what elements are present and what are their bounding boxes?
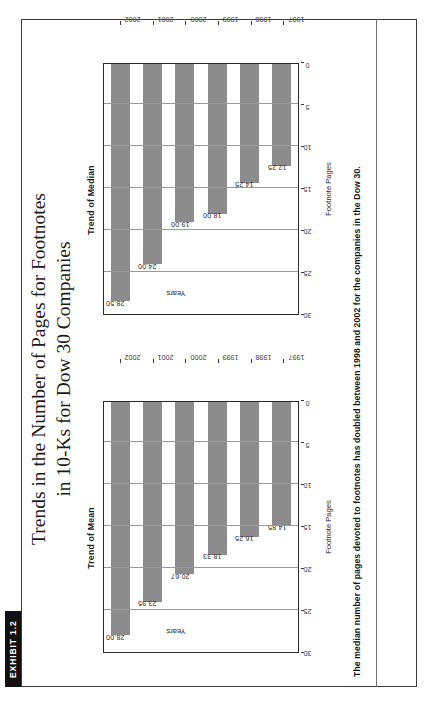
bar-row: 23.95 bbox=[143, 402, 162, 652]
category-tick-mark bbox=[120, 359, 121, 363]
bar-spacer bbox=[281, 526, 282, 652]
bar-spacer bbox=[184, 574, 185, 652]
category-tick-label: 1999 bbox=[223, 15, 239, 24]
gridline bbox=[104, 271, 298, 272]
bar-value-label: 16.25 bbox=[235, 534, 254, 543]
chart-title-mean: Trend of Mean bbox=[86, 383, 96, 693]
plot-wrap-mean: 28.0023.9520.6718.3316.2514.85 051015202… bbox=[103, 401, 299, 653]
value-tick-label: 10 bbox=[304, 143, 312, 152]
bar-row: 14.25 bbox=[240, 64, 259, 314]
bar-row: 19.00 bbox=[175, 64, 194, 314]
category-axis-median: 199719981999200020012002 bbox=[120, 0, 316, 21]
bar bbox=[111, 402, 130, 635]
bar bbox=[208, 402, 227, 555]
bar-row: 24.00 bbox=[143, 64, 162, 314]
bar-value-label: 20.67 bbox=[171, 571, 190, 580]
value-tick-label: 15 bbox=[304, 523, 312, 532]
bar-row: 20.67 bbox=[175, 402, 194, 652]
bar-spacer bbox=[217, 555, 218, 652]
chart-trend-of-mean: Trend of Mean 28.0023.9520.6718.3316.251… bbox=[86, 383, 336, 693]
page-title-line-1: Trends in the Number of Pages for Footno… bbox=[26, 35, 51, 703]
bar-value-label: 18.33 bbox=[203, 551, 222, 560]
exhibit-page: EXHIBIT 1.2 Trends in the Number of Page… bbox=[0, 0, 436, 703]
bar-row: 16.25 bbox=[240, 402, 259, 652]
bar bbox=[143, 402, 162, 602]
bar-value-label: 12.25 bbox=[268, 162, 287, 171]
chart-trend-of-median: Trend of Median 28.5024.0019.0018.0014.2… bbox=[86, 45, 336, 355]
bar bbox=[208, 64, 227, 214]
bar-row: 28.00 bbox=[111, 402, 130, 652]
gridline bbox=[104, 609, 298, 610]
value-tick-label: 0 bbox=[306, 399, 310, 408]
category-tick-label: 2002 bbox=[125, 15, 141, 24]
bar bbox=[143, 64, 162, 264]
bar-value-label: 28.50 bbox=[106, 299, 125, 308]
value-tick-label: 25 bbox=[304, 607, 312, 616]
value-tick-label: 10 bbox=[304, 481, 312, 490]
bar bbox=[175, 64, 194, 222]
category-tick-mark bbox=[218, 21, 219, 25]
category-tick-mark bbox=[251, 359, 252, 363]
gridline bbox=[104, 525, 298, 526]
gridline bbox=[104, 103, 298, 104]
page-title: Trends in the Number of Pages for Footno… bbox=[26, 35, 76, 703]
category-tick-label: 1998 bbox=[256, 15, 272, 24]
bar bbox=[272, 64, 291, 166]
category-tick-mark bbox=[251, 21, 252, 25]
value-tick-label: 15 bbox=[304, 185, 312, 194]
bar-value-label: 19.00 bbox=[171, 219, 190, 228]
plot-area-mean: 28.0023.9520.6718.3316.2514.85 bbox=[103, 401, 299, 653]
bar bbox=[272, 402, 291, 526]
bar bbox=[111, 64, 130, 302]
bar bbox=[240, 402, 259, 537]
value-axis-title-mean: Footnote Pages bbox=[324, 401, 333, 653]
bar-spacer bbox=[281, 166, 282, 314]
category-tick-mark bbox=[218, 359, 219, 363]
chart-title-median: Trend of Median bbox=[86, 45, 96, 355]
category-tick-mark bbox=[283, 359, 284, 363]
bar-value-label: 24.00 bbox=[138, 261, 157, 270]
value-tick-label: 20 bbox=[304, 565, 312, 574]
bar-value-label: 23.95 bbox=[138, 599, 157, 608]
value-tick-label: 0 bbox=[306, 61, 310, 70]
category-tick-mark bbox=[120, 21, 121, 25]
bar bbox=[240, 64, 259, 183]
value-tick-label: 20 bbox=[304, 227, 312, 236]
gridline bbox=[104, 567, 298, 568]
value-tick-label: 5 bbox=[306, 103, 310, 112]
gridline bbox=[104, 229, 298, 230]
bar-spacer bbox=[184, 222, 185, 314]
value-tick-label: 5 bbox=[306, 441, 310, 450]
value-tick-label: 30 bbox=[304, 311, 312, 320]
exhibit-caption: The median number of pages devoted to fo… bbox=[352, 57, 362, 677]
charts-container: Trend of Mean 28.0023.9520.6718.3316.251… bbox=[86, 45, 336, 693]
value-axis-median: 051015202530 bbox=[301, 63, 323, 315]
plot-area-median: 28.5024.0019.0018.0014.2512.25 bbox=[103, 63, 299, 315]
value-tick-mark bbox=[301, 442, 304, 443]
bar-row: 14.85 bbox=[272, 402, 291, 652]
category-tick-label: 2001 bbox=[158, 15, 174, 24]
value-tick-mark bbox=[301, 62, 304, 63]
gridline bbox=[104, 441, 298, 442]
caption-divider bbox=[376, 19, 377, 687]
category-tick-mark bbox=[153, 359, 154, 363]
gridline bbox=[104, 145, 298, 146]
gridline bbox=[104, 187, 298, 188]
bar-spacer bbox=[249, 537, 250, 652]
bar-row: 28.50 bbox=[111, 64, 130, 314]
category-tick-label: 1997 bbox=[288, 15, 304, 24]
value-tick-label: 30 bbox=[304, 649, 312, 658]
category-tick-label: 2000 bbox=[190, 15, 206, 24]
category-axis-title-mean: Years bbox=[166, 627, 185, 636]
bar-row: 18.33 bbox=[208, 402, 227, 652]
value-axis-mean: 051015202530 bbox=[301, 401, 323, 653]
category-tick-mark bbox=[153, 21, 154, 25]
bar-value-label: 28.00 bbox=[106, 633, 125, 642]
plot-wrap-median: 28.5024.0019.0018.0014.2512.25 051015202… bbox=[103, 63, 299, 315]
value-tick-label: 25 bbox=[304, 269, 312, 278]
page-title-line-2: in 10-Ks for Dow 30 Companies bbox=[51, 35, 76, 703]
bar-series-mean: 28.0023.9520.6718.3316.2514.85 bbox=[104, 402, 298, 652]
value-tick-mark bbox=[301, 104, 304, 105]
value-axis-title-median: Footnote Pages bbox=[324, 63, 333, 315]
category-axis-title-median: Years bbox=[166, 289, 185, 298]
